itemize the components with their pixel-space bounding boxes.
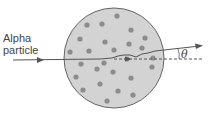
charge-dot <box>126 41 131 46</box>
charge-dot <box>111 47 116 52</box>
diagram-svg <box>0 0 210 114</box>
arrowhead-outgoing-icon <box>195 44 203 50</box>
charge-dot <box>130 92 135 97</box>
label-particle: particle <box>3 44 38 56</box>
charge-dot <box>104 98 109 103</box>
charge-dot <box>110 69 115 74</box>
charge-dot <box>99 21 104 26</box>
atom-circle <box>64 8 164 108</box>
charge-dot <box>67 49 72 54</box>
label-alpha: Alpha <box>3 32 31 44</box>
charge-dot <box>77 36 82 41</box>
charge-dot <box>84 22 89 27</box>
charge-dot <box>128 75 133 80</box>
charge-dot <box>149 64 154 69</box>
charge-dot <box>115 88 120 93</box>
charge-dot <box>142 35 147 40</box>
charge-dot <box>78 61 83 66</box>
charge-dot <box>139 45 144 50</box>
charge-dot <box>114 13 119 18</box>
angle-theta-label: θ <box>181 48 188 61</box>
arrowhead-incoming-icon <box>37 57 44 63</box>
angle-arc <box>178 49 179 59</box>
charge-dot <box>102 39 107 44</box>
charge-dot <box>150 55 155 60</box>
charge-dot <box>80 87 85 92</box>
charge-dot <box>101 60 106 65</box>
charge-dot <box>128 27 133 32</box>
charge-dot <box>94 66 99 71</box>
charge-dot <box>73 74 78 79</box>
charge-dot <box>97 81 102 86</box>
alpha-scattering-diagram: Alpha particle θ <box>0 0 210 114</box>
charge-dot <box>86 48 91 53</box>
